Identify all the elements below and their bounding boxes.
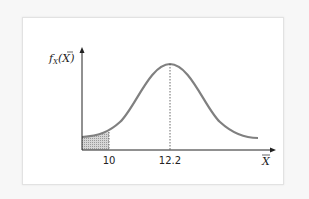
x-tick-12-2: 12.2 — [159, 155, 181, 166]
y-axis-arrow-icon — [80, 47, 85, 53]
x-tick-10: 10 — [103, 155, 116, 166]
x-axis-label: X — [261, 155, 271, 168]
y-axis-label: fX(X) — [48, 52, 74, 66]
normal-distribution-diagram: fX(X) 10 12.2 X — [0, 0, 309, 199]
x-axis-arrow-icon — [270, 148, 276, 153]
